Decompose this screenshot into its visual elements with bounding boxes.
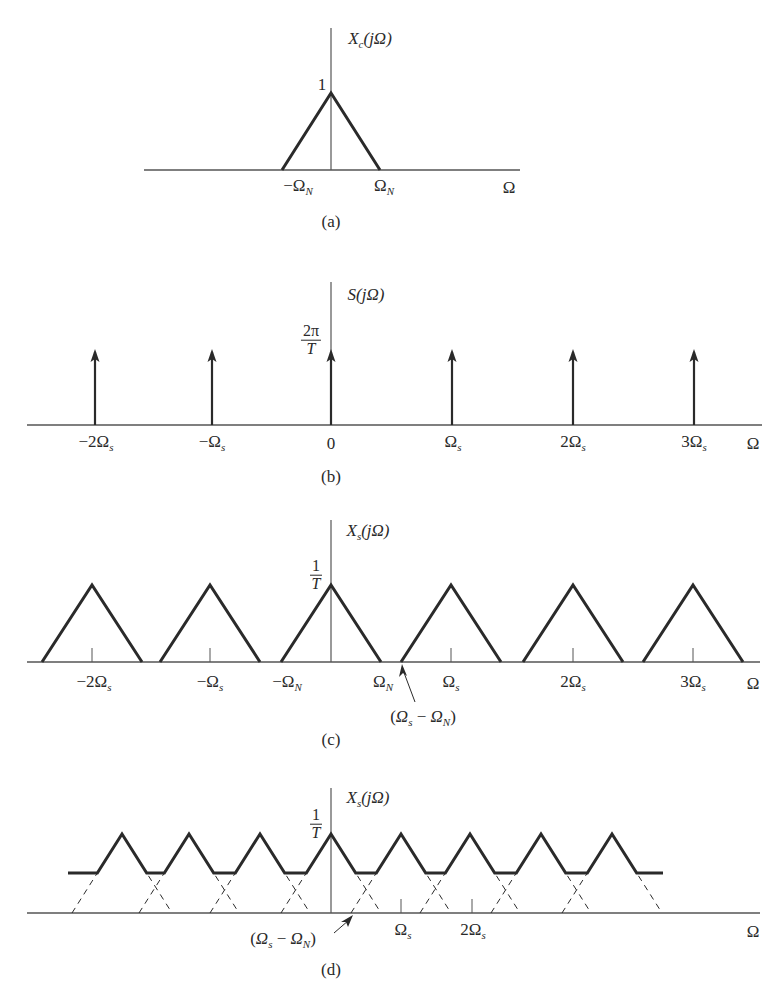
x-tick-label: Ωs <box>395 921 412 941</box>
x-tick-label: −2Ωs <box>78 433 113 453</box>
x-tick-label: 2Ωs <box>460 921 485 941</box>
x-tick-label-main: −Ω <box>199 432 221 451</box>
x-tick-label-main: 3Ω <box>680 672 701 691</box>
panel-a-graph <box>144 28 520 170</box>
x-tick-label-sub: s <box>701 681 705 693</box>
x-tick-label-sub: s <box>455 681 459 693</box>
x-tick-label-main: Ω <box>395 920 408 939</box>
panel-c-peak-label: 1 T <box>310 558 322 593</box>
x-tick-label-main: 2Ω <box>560 672 581 691</box>
x-tick-label: −ΩN <box>283 177 313 197</box>
panel-a-caption: (a) <box>322 212 341 232</box>
annotation-arrow-line <box>403 670 415 702</box>
x-tick-label-sub: s <box>107 681 111 693</box>
x-tick-label-main: Ω <box>747 434 760 453</box>
x-tick-label-main: Ω <box>503 178 516 197</box>
ylabel-arg: (jΩ) <box>361 788 389 807</box>
fraction-numerator: 1 <box>310 558 322 576</box>
x-tick-label-main: −2Ω <box>76 672 107 691</box>
panel-d-peak-label: 1 T <box>310 807 322 842</box>
x-tick-label-sub: s <box>221 441 225 453</box>
panel-b-ylabel: S(jΩ) <box>348 286 385 303</box>
panel-c-ylabel: Xs(jΩ) <box>346 522 389 542</box>
x-tick-label-sub: s <box>219 681 223 693</box>
x-tick-label-main: −Ω <box>272 672 294 691</box>
ylabel-main: X <box>346 788 356 807</box>
x-tick-label: Ωs <box>443 673 460 693</box>
x-tick-label-main: Ω <box>747 674 760 693</box>
x-tick-label: −ΩN <box>272 673 302 693</box>
x-tick-label-sub: s <box>407 929 411 941</box>
fraction-numerator: 2π <box>301 323 321 341</box>
x-tick-label-main: 2Ω <box>460 920 481 939</box>
x-tick-label: ΩN <box>374 177 394 197</box>
x-tick-label-sub: s <box>581 681 585 693</box>
x-tick-label: Ωs <box>445 433 462 453</box>
x-tick-label-sub: s <box>457 441 461 453</box>
x-tick-label-sub: s <box>702 441 706 453</box>
x-tick-label-main: Ω <box>443 672 456 691</box>
fraction-denominator: T <box>310 825 322 842</box>
x-tick-label: −Ωs <box>199 433 226 453</box>
panel-c-caption: (c) <box>322 730 341 750</box>
ylabel-arg: (jΩ) <box>361 521 389 540</box>
sampling-spectra-diagram <box>0 0 782 1001</box>
x-tick-label-sub: s <box>581 441 585 453</box>
x-tick-label-sub: N <box>294 681 301 693</box>
x-tick-label: Ω <box>747 923 760 940</box>
ylabel-main: X <box>346 521 356 540</box>
fraction-numerator: 1 <box>310 807 322 825</box>
panel-d-caption: (d) <box>321 960 341 980</box>
x-tick-label: 0 <box>327 435 336 452</box>
panel-a-ylabel: Xc(jΩ) <box>348 30 392 50</box>
panel-a-peak-label: 1 <box>318 76 327 93</box>
ylabel-arg: (jΩ) <box>356 285 384 304</box>
panel-b-caption: (b) <box>321 467 341 487</box>
fraction-denominator: T <box>310 576 322 593</box>
ylabel-main: S <box>348 285 357 304</box>
x-tick-label-main: Ω <box>445 432 458 451</box>
x-tick-label-main: 0 <box>327 434 336 453</box>
x-tick-label: 3Ωs <box>680 673 705 693</box>
x-tick-label-main: Ω <box>747 922 760 941</box>
ylabel-main: X <box>348 29 358 48</box>
panel-b-peak-label: 2π T <box>301 323 321 358</box>
x-tick-label-main: Ω <box>374 176 387 195</box>
panel-d-ylabel: Xs(jΩ) <box>346 789 389 809</box>
panel-d-annotation: (Ωs − ΩN) <box>250 930 316 950</box>
x-tick-label-main: −Ω <box>283 176 305 195</box>
x-tick-label: ΩN <box>373 673 393 693</box>
x-tick-label: Ω <box>747 675 760 692</box>
x-tick-label-main: 3Ω <box>681 432 702 451</box>
x-tick-label: Ω <box>747 435 760 452</box>
x-tick-label: 3Ωs <box>681 433 706 453</box>
x-tick-label-main: Ω <box>373 672 386 691</box>
panel-c-annotation: (Ωs − ΩN) <box>390 708 456 728</box>
annotation-arrowhead-icon <box>399 664 407 677</box>
x-tick-label-main: −Ω <box>197 672 219 691</box>
panel-b-graph <box>27 282 762 425</box>
x-tick-label-main: −2Ω <box>78 432 109 451</box>
x-tick-label-sub: s <box>481 929 485 941</box>
x-tick-label: Ω <box>503 179 516 196</box>
ylabel-arg: (jΩ) <box>363 29 391 48</box>
x-tick-label: −Ωs <box>197 673 224 693</box>
x-tick-label-sub: N <box>387 185 394 197</box>
x-tick-label-main: 2Ω <box>560 432 581 451</box>
x-tick-label-sub: s <box>109 441 113 453</box>
x-tick-label: 2Ωs <box>560 673 585 693</box>
x-tick-label-sub: N <box>386 681 393 693</box>
panel-d-graph <box>27 788 760 933</box>
panel-c-graph <box>27 520 760 702</box>
x-tick-label-sub: N <box>305 185 312 197</box>
x-tick-label: −2Ωs <box>76 673 111 693</box>
aliased-spectrum <box>68 834 663 873</box>
fraction-denominator: T <box>301 341 321 358</box>
x-tick-label: 2Ωs <box>560 433 585 453</box>
